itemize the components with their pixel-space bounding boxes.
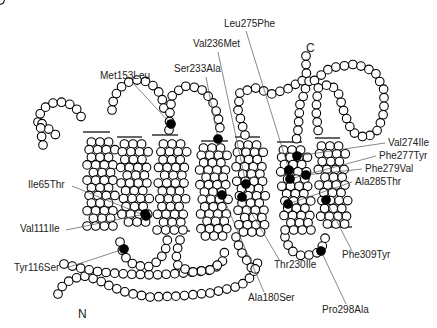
residue (261, 191, 270, 200)
residue (306, 197, 315, 206)
residue (189, 290, 198, 299)
residue (175, 202, 184, 211)
c-terminus-label: C (306, 41, 315, 55)
residue (324, 65, 333, 74)
residue (305, 251, 314, 260)
residue (146, 293, 155, 302)
mutation-label-phe309tyr: Phe309Tyr (342, 249, 391, 260)
residue (181, 265, 190, 274)
residue (37, 132, 46, 141)
residue (154, 179, 163, 188)
residue (137, 140, 146, 149)
residue (236, 114, 245, 123)
residue (302, 69, 311, 78)
mutation-residue-phe279val (302, 171, 311, 180)
residue (39, 141, 48, 150)
residue (379, 85, 388, 94)
residue (313, 92, 322, 101)
residue (314, 126, 323, 135)
residue (117, 179, 126, 188)
residue (144, 148, 153, 157)
residue (332, 220, 341, 229)
residue (294, 126, 303, 135)
residue (57, 98, 66, 107)
residue (327, 157, 336, 166)
residue (169, 171, 178, 180)
residue (176, 155, 185, 164)
residue (129, 290, 138, 299)
residue (312, 109, 321, 118)
residue (139, 187, 148, 196)
residue (276, 87, 285, 96)
residue (145, 194, 154, 203)
residue (163, 236, 172, 245)
residue (335, 157, 344, 166)
residue (134, 179, 143, 188)
residue (176, 218, 185, 227)
residue (108, 106, 117, 115)
residue (380, 102, 389, 111)
residue (102, 268, 111, 277)
residue (170, 269, 179, 278)
residue (234, 106, 243, 115)
residue (248, 228, 257, 237)
residue (296, 100, 305, 109)
residue (341, 150, 350, 159)
residue (343, 196, 352, 205)
residue (158, 202, 167, 211)
residue (281, 226, 290, 235)
residue (0, 0, 4, 4)
residue (223, 285, 232, 294)
residue (195, 166, 204, 175)
residue (153, 271, 162, 280)
residue (110, 269, 119, 278)
residue (235, 97, 244, 106)
residue (340, 61, 349, 70)
residue (379, 110, 388, 119)
residue (182, 148, 191, 157)
mutation-residue-phe309tyr (322, 196, 331, 205)
residue (243, 86, 252, 95)
residue (174, 148, 183, 157)
mutation-residue-leu275phe (285, 166, 294, 175)
residue (280, 211, 289, 220)
residue (302, 60, 311, 69)
residue (157, 148, 166, 157)
mutation-residue-val111ile (141, 210, 150, 219)
residue (358, 132, 367, 141)
residue (340, 220, 349, 229)
residue (163, 292, 172, 301)
residue (176, 236, 185, 245)
mutation-label-ile65thr: Ile65Thr (28, 179, 65, 190)
mutation-label-met153leu: Met153Leu (100, 70, 150, 81)
residue (128, 259, 137, 268)
residue (179, 226, 188, 235)
residue (162, 179, 171, 188)
residue (143, 179, 152, 188)
residue (346, 122, 355, 131)
residue (349, 60, 358, 69)
mutation-label-ala285thr: Ala285Thr (355, 176, 402, 187)
residue (105, 281, 114, 290)
residue (112, 284, 121, 293)
mutation-label-val236met: Val236Met (193, 38, 240, 49)
residue (292, 134, 301, 143)
residue (118, 210, 127, 219)
residue (136, 270, 145, 279)
residue (171, 179, 180, 188)
residue (120, 140, 129, 149)
mutation-label-phe279val: Phe279Val (365, 163, 413, 174)
residue (160, 171, 169, 180)
residue (109, 222, 118, 231)
residue (380, 93, 389, 102)
residue (125, 163, 134, 172)
residue (156, 194, 165, 203)
residue (318, 157, 327, 166)
residue (201, 232, 210, 241)
residue (91, 222, 100, 231)
residue (182, 82, 191, 91)
residue (213, 261, 222, 270)
residue (172, 252, 181, 261)
residue (276, 168, 285, 177)
residue (166, 109, 175, 118)
